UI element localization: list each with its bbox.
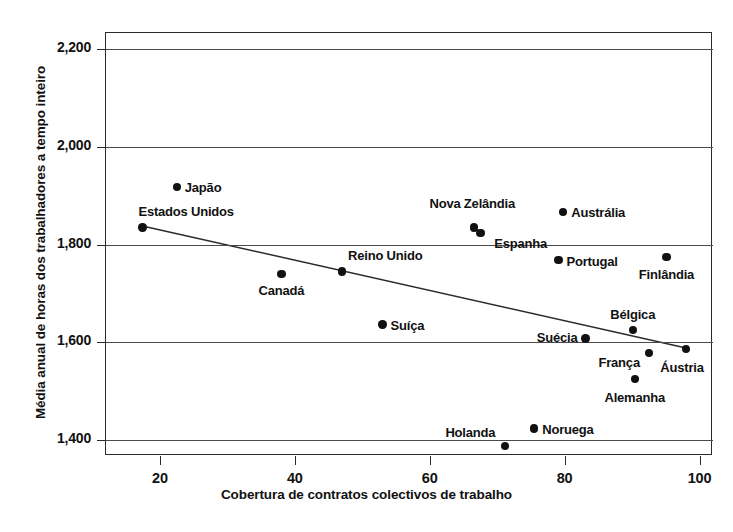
data-point-label: Japão [185,179,222,194]
y-axis-tick [97,440,106,441]
data-point-label: Bélgica [610,306,655,321]
data-point-label: Suécia [537,329,578,344]
y-axis-tick [97,342,106,343]
x-axis-tick [160,456,161,465]
data-point-label: Austrália [571,205,625,220]
data-point[interactable] [173,183,181,191]
x-axis-tick-label: 80 [535,470,595,486]
y-axis-tick-label: 1,600 [19,332,91,348]
x-axis-tick-label: 20 [130,470,190,486]
data-point-label: Espanha [494,236,547,251]
data-point-label: Áustria [660,359,703,374]
y-axis-tick-label: 1,800 [19,235,91,251]
data-point-label: Reino Unido [348,248,422,263]
y-axis-tick [97,245,106,246]
x-axis-title: Cobertura de contratos colectivos de tra… [0,487,733,502]
data-point[interactable] [277,270,285,278]
gridline-y [106,49,713,50]
data-point-label: Finlândia [639,266,694,281]
data-point[interactable] [662,253,670,261]
data-point[interactable] [378,320,386,328]
y-axis-tick-label: 2,200 [19,39,91,55]
x-axis-tick-label: 100 [670,470,730,486]
y-axis-tick-label: 1,400 [19,430,91,446]
data-point-label: Noruega [542,421,593,436]
x-axis-tick [565,456,566,465]
data-point-label: Alemanha [604,390,665,405]
plot-area: 20406080100JapãoEstados UnidosCanadáRein… [105,32,712,455]
data-point[interactable] [581,334,589,342]
data-point-label: Portugal [567,254,618,269]
data-point-label: França [598,355,639,370]
gridline-y [106,440,713,441]
x-axis-tick [295,456,296,465]
y-axis-tick-label: 2,000 [19,137,91,153]
data-point[interactable] [629,326,637,334]
x-axis-tick-label: 40 [265,470,325,486]
chart-figure: Média anual de horas dos trabalhadores a… [0,0,733,532]
data-point-label: Suíça [391,318,425,333]
x-axis-tick [430,456,431,465]
data-point-label: Estados Unidos [138,204,233,219]
data-point[interactable] [338,267,346,275]
y-axis-tick [97,147,106,148]
x-axis-tick [700,456,701,465]
y-axis-tick [97,49,106,50]
data-point[interactable] [476,229,484,237]
gridline-y [106,245,713,246]
data-point-label: Holanda [445,425,495,440]
gridline-y [106,147,713,148]
gridline-y [106,342,713,343]
data-point[interactable] [138,223,146,231]
data-point-label: Nova Zelândia [429,196,515,211]
data-point-label: Canadá [258,282,304,297]
data-point[interactable] [554,256,562,264]
x-axis-tick-label: 60 [400,470,460,486]
